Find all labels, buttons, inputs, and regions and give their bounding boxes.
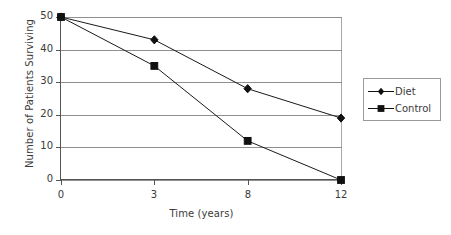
data-point-control-8: [244, 137, 251, 144]
series-line-control: [61, 17, 341, 180]
diamond-marker-icon: [368, 86, 394, 97]
legend-label-control: Control: [395, 103, 431, 114]
x-tick-mark: [248, 180, 249, 185]
data-point-diet-3: [151, 36, 158, 44]
data-point-control-0: [58, 14, 65, 21]
square-marker-icon: [368, 103, 394, 114]
gridline: [61, 180, 342, 181]
x-tick-label: 0: [41, 189, 81, 200]
legend-item-diet[interactable]: Diet: [368, 83, 416, 99]
y-tick-label: 10: [40, 140, 53, 151]
legend: Diet Control: [363, 78, 441, 121]
y-tick-label: 30: [40, 75, 53, 86]
x-axis-title: Time (years): [61, 208, 342, 219]
plot-area: 01020304050 03812: [61, 17, 342, 180]
series-layer: [61, 17, 342, 180]
y-axis-title: Number of Patients Surviving: [24, 4, 35, 184]
x-tick-label: 8: [228, 189, 268, 200]
data-point-diet-12: [337, 114, 344, 122]
legend-item-control[interactable]: Control: [368, 100, 431, 116]
data-point-diet-8: [244, 85, 251, 93]
x-tick-mark: [61, 180, 62, 185]
y-tick-label: 20: [40, 108, 53, 119]
x-tick-label: 3: [134, 189, 174, 200]
x-tick-label: 12: [321, 189, 361, 200]
line-chart-figure: Number of Patients Surviving Time (years…: [0, 0, 451, 235]
y-tick-label: 0: [47, 173, 53, 184]
y-tick-label: 50: [40, 10, 53, 21]
data-point-control-3: [151, 63, 158, 70]
data-point-control-12: [338, 177, 345, 184]
legend-label-diet: Diet: [395, 86, 416, 97]
y-tick-label: 40: [40, 43, 53, 54]
x-tick-mark: [154, 180, 155, 185]
